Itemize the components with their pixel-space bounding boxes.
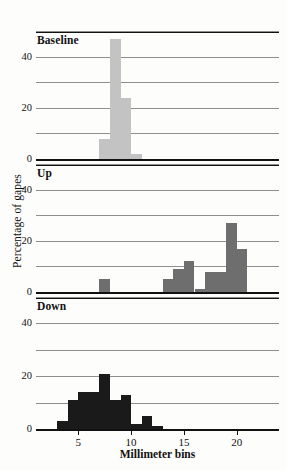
x-tick-mark — [131, 429, 132, 435]
gridline — [36, 376, 279, 377]
bar — [68, 400, 79, 429]
bar — [57, 421, 68, 429]
gridline — [36, 350, 279, 351]
y-axis-label: Percentage of gapes — [11, 126, 23, 316]
y-tick-label: 20 — [22, 236, 33, 247]
panel-base-rule — [36, 159, 279, 161]
gridline — [36, 133, 279, 134]
panel-title-up: Up — [37, 167, 52, 179]
y-tick-label: 40 — [22, 318, 33, 329]
y-tick-label: 0 — [27, 424, 32, 435]
x-tick-label: 20 — [231, 436, 242, 448]
x-axis: 5101520 — [36, 429, 279, 449]
bar — [237, 249, 248, 293]
bar — [173, 269, 184, 292]
bar — [216, 272, 227, 293]
bar — [99, 279, 110, 292]
gridline — [36, 190, 279, 191]
x-tick-label: 15 — [178, 436, 189, 448]
gridline — [36, 297, 279, 298]
bar — [99, 374, 110, 429]
y-tick-label: 0 — [27, 287, 32, 298]
bar — [110, 400, 121, 429]
y-tick-label: 0 — [27, 154, 32, 165]
panel-baseline: 02040Baseline — [36, 31, 279, 161]
bar — [121, 395, 132, 429]
panel-down: 02040Down — [36, 297, 279, 431]
x-axis-label: Millimeter bins — [36, 448, 279, 460]
panel-up: 02040Up — [36, 164, 279, 294]
x-tick-mark — [237, 429, 238, 435]
gridline — [36, 323, 279, 324]
gridline — [36, 164, 279, 165]
panel-title-down: Down — [37, 300, 66, 312]
gridline — [36, 57, 279, 58]
y-tick-label: 40 — [22, 51, 33, 62]
gridline — [36, 241, 279, 242]
gridline — [36, 82, 279, 83]
bar — [205, 272, 216, 293]
y-tick-label: 20 — [22, 103, 33, 114]
y-tick-label: 20 — [22, 371, 33, 382]
x-tick-label: 10 — [126, 436, 137, 448]
panel-title-baseline: Baseline — [37, 34, 79, 46]
bar — [163, 279, 174, 292]
bar — [78, 392, 89, 429]
bar — [184, 261, 195, 292]
bar — [110, 39, 121, 159]
bar — [121, 98, 132, 159]
x-tick-mark — [184, 429, 185, 435]
figure-container: Percentage of gapes 02040Baseline 02040U… — [0, 0, 287, 471]
x-tick-label: 5 — [76, 436, 82, 448]
y-tick-label: 40 — [22, 184, 33, 195]
gridline — [36, 31, 279, 32]
bar — [142, 416, 153, 429]
bar — [89, 392, 100, 429]
gridline — [36, 108, 279, 109]
panel-base-rule — [36, 292, 279, 294]
bar — [226, 223, 237, 292]
gridline — [36, 215, 279, 216]
x-tick-mark — [78, 429, 79, 435]
bar — [99, 139, 110, 160]
